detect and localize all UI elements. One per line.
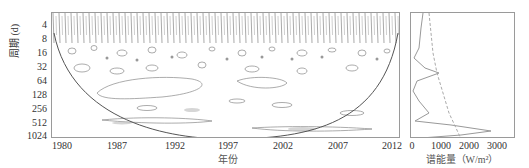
y-tick: 256: [32, 104, 47, 114]
y-tick: 4: [42, 20, 47, 30]
side-x-axis-label: 谱能量（W/m²）: [426, 151, 499, 166]
side-x-tick: 2000: [459, 141, 479, 151]
y-tick: 16: [37, 48, 47, 58]
x-tick: 1997: [218, 141, 238, 151]
y-tick: 512: [32, 118, 47, 128]
y-tick: 64: [37, 76, 47, 86]
x-tick: 1992: [165, 141, 185, 151]
global-spectrum-lines: [411, 13, 515, 138]
y-tick: 128: [32, 90, 47, 100]
side-x-tick: 3000: [487, 141, 507, 151]
wavelet-contours: [52, 13, 400, 138]
x-tick: 2012: [382, 141, 402, 151]
side-x-tick: 0: [410, 141, 415, 151]
x-tick: 2002: [273, 141, 293, 151]
global-spectrum-plot: [410, 12, 515, 138]
x-tick: 2007: [328, 141, 348, 151]
cone-of-influence: [54, 33, 398, 138]
x-axis-label: 年份: [218, 151, 238, 166]
side-x-tick: 1000: [431, 141, 451, 151]
y-tick: 32: [37, 62, 47, 72]
y-tick: 1024: [27, 131, 47, 141]
wavelet-power-plot: [51, 12, 400, 138]
x-tick: 1980: [52, 141, 72, 151]
x-tick: 1987: [107, 141, 127, 151]
y-axis-label: 周期 (d): [6, 24, 21, 58]
y-tick: 8: [42, 34, 47, 44]
